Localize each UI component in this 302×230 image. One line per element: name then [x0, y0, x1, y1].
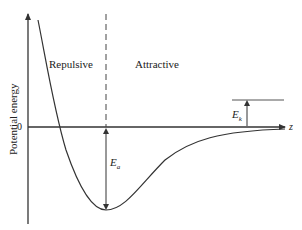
region-attractive-label: Attractive [135, 58, 179, 70]
zero-label: 0 [17, 121, 22, 132]
kinetic-energy-label: Ek [231, 108, 243, 123]
y-axis-label: Potential energy [7, 83, 19, 155]
potential-energy-diagram: Potential energy 0 z Repulsive Attractiv… [0, 0, 302, 230]
potential-curve [38, 20, 285, 210]
region-repulsive-label: Repulsive [49, 58, 93, 70]
well-depth-label: Ea [109, 156, 121, 171]
z-axis-label: z [288, 121, 293, 132]
